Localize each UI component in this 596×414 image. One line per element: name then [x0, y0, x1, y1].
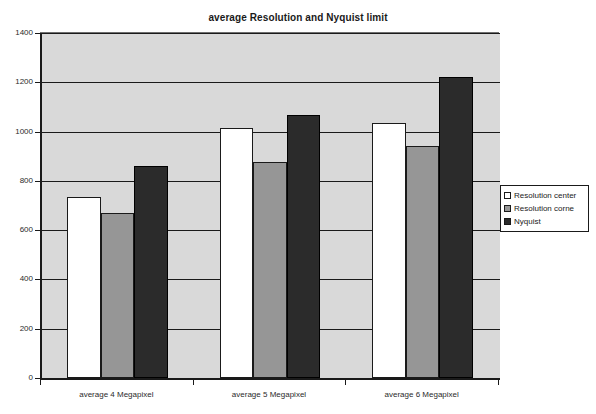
bar [101, 213, 135, 378]
legend-item-label: Resolution center [514, 191, 576, 200]
legend-item-label: Resolution corne [514, 204, 574, 213]
legend-item: Resolution corne [504, 202, 585, 214]
bar [220, 128, 254, 378]
bar [287, 115, 321, 378]
legend-swatch-icon [504, 205, 511, 212]
y-axis-tick-mark [35, 82, 42, 83]
x-axis-tick-mark [498, 379, 499, 385]
legend-item: Resolution center [504, 189, 585, 201]
y-axis-tick-label: 1200 [1, 78, 33, 86]
y-axis-tick-mark [35, 230, 42, 231]
bar [372, 123, 406, 378]
y-axis-tick-label: 600 [1, 226, 33, 234]
bar [439, 77, 473, 378]
y-axis-tick-mark [35, 279, 42, 280]
legend-item: Nyquist [504, 215, 585, 227]
chart-legend: Resolution centerResolution corneNyquist [500, 185, 589, 232]
legend-item-label: Nyquist [514, 217, 541, 226]
x-axis-tick-label: average 6 Megapixel [345, 390, 498, 399]
bar [253, 162, 287, 378]
y-axis-tick-mark [35, 181, 42, 182]
y-axis-tick-label: 400 [1, 275, 33, 283]
x-axis-tick-mark [40, 379, 41, 385]
y-axis-tick-label: 200 [1, 325, 33, 333]
y-axis-tick-label: 1400 [1, 29, 33, 37]
legend-swatch-icon [504, 192, 511, 199]
bar [406, 146, 440, 378]
bar [134, 166, 168, 378]
y-axis-tick-mark [35, 33, 42, 34]
plot-area [40, 33, 500, 380]
y-axis-tick-label: 1000 [1, 128, 33, 136]
gridline [42, 132, 500, 133]
x-axis-tick-mark [345, 379, 346, 385]
bar-chart: average Resolution and Nyquist limit 140… [0, 0, 596, 414]
y-axis-tick-mark [35, 329, 42, 330]
x-axis-tick-mark [193, 379, 194, 385]
y-axis-tick-mark [35, 132, 42, 133]
legend-swatch-icon [504, 218, 511, 225]
chart-title: average Resolution and Nyquist limit [0, 12, 596, 23]
y-axis-tick-label: 800 [1, 177, 33, 185]
y-axis-tick-label: 0 [1, 374, 33, 382]
x-axis-tick-label: average 4 Megapixel [40, 390, 193, 399]
gridline [42, 82, 500, 83]
gridline [42, 33, 500, 34]
bar [67, 197, 101, 378]
x-axis-tick-label: average 5 Megapixel [193, 390, 346, 399]
